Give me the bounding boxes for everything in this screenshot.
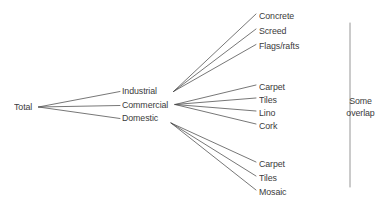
node-screed: Screed xyxy=(259,25,286,36)
overlap-annotation: Some overlap xyxy=(340,95,382,119)
edge-domestic-tiles xyxy=(171,123,256,176)
node-commercial-tiles: Tiles xyxy=(259,94,277,105)
tree-connector-lines xyxy=(0,0,383,207)
node-concrete: Concrete xyxy=(259,10,294,21)
node-commercial-carpet: Carpet xyxy=(259,81,285,92)
edge-total-industrial xyxy=(39,92,121,108)
edge-industrial-concrete xyxy=(174,14,257,92)
node-domestic-tiles: Tiles xyxy=(259,172,277,183)
node-industrial: Industrial xyxy=(122,85,157,96)
node-domestic-carpet: Carpet xyxy=(259,158,285,169)
node-flags-rafts: Flags/rafts xyxy=(259,40,299,51)
node-commercial: Commercial xyxy=(122,99,168,110)
overlap-annotation-line1: Some xyxy=(349,95,372,106)
node-domestic: Domestic xyxy=(122,112,158,123)
node-total: Total xyxy=(14,101,32,112)
overlap-annotation-line2: overlap xyxy=(340,107,382,119)
tree-diagram: Total Industrial Commercial Domestic Con… xyxy=(0,0,383,207)
node-commercial-cork: Cork xyxy=(259,120,277,131)
edge-total-domestic xyxy=(39,107,121,119)
edge-total-commercial xyxy=(39,106,121,108)
edge-industrial-screed xyxy=(174,29,257,92)
node-commercial-lino: Lino xyxy=(259,107,275,118)
node-domestic-mosaic: Mosaic xyxy=(259,186,286,197)
edge-industrial-flagsrafts xyxy=(174,45,257,92)
